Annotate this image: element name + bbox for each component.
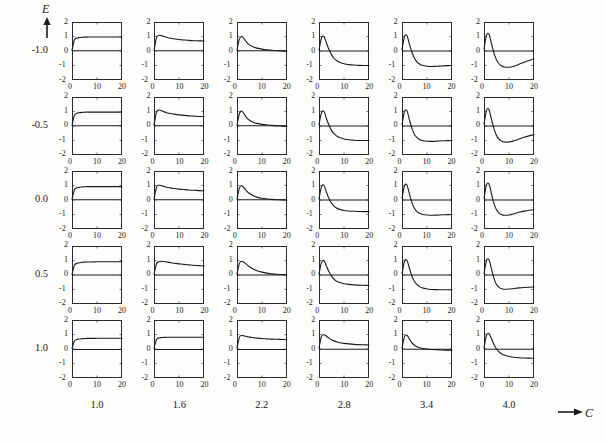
y-tick-label: -2 <box>306 149 313 158</box>
x-tick-label: 0 <box>315 82 319 91</box>
y-tick-label: 2 <box>229 315 233 324</box>
y-tick-label: 0 <box>311 344 315 353</box>
x-tick-label: 20 <box>448 82 456 91</box>
x-tick-label: 20 <box>118 82 126 91</box>
y-tick-label: 2 <box>146 17 150 26</box>
x-tick-label: 10 <box>423 157 431 166</box>
y-tick-label: 0 <box>64 344 68 353</box>
plot-panel-r0-c0 <box>72 22 122 80</box>
row-label-2: 0.0 <box>14 193 48 204</box>
x-tick-label: 0 <box>315 157 319 166</box>
x-tick-label: 20 <box>200 82 208 91</box>
row-label-1: -0.5 <box>14 119 48 130</box>
y-tick-label: 1 <box>394 31 398 40</box>
y-tick-label: 0 <box>229 344 233 353</box>
panel-plot-area <box>154 22 204 80</box>
y-tick-label: -2 <box>389 75 396 84</box>
y-tick-label: -1 <box>471 209 478 218</box>
x-tick-label: 10 <box>505 380 513 389</box>
y-tick-label: 2 <box>311 91 315 100</box>
x-tick-label: 10 <box>423 231 431 240</box>
plot-panel-r0-c1 <box>154 22 204 80</box>
x-tick-label: 10 <box>258 306 266 315</box>
response-curve-series <box>484 183 534 215</box>
x-tick-label: 20 <box>118 157 126 166</box>
panel-plot-area <box>319 171 369 229</box>
y-tick-label: 0 <box>476 344 480 353</box>
y-tick-label: 0 <box>394 269 398 278</box>
y-tick-label: -2 <box>471 224 478 233</box>
x-axis-label: C <box>585 406 593 421</box>
x-tick-label: 20 <box>283 306 291 315</box>
x-tick-label: 20 <box>530 157 538 166</box>
panel-plot-area <box>72 22 122 80</box>
y-tick-label: 1 <box>146 31 150 40</box>
y-tick-label: -1 <box>59 284 66 293</box>
x-tick-label: 20 <box>530 231 538 240</box>
y-tick-label: 2 <box>229 17 233 26</box>
plot-panel-r1-c1 <box>154 97 204 155</box>
y-tick-label: 0 <box>476 120 480 129</box>
panel-plot-area <box>154 320 204 378</box>
response-curve-series <box>237 261 287 275</box>
x-tick-label: 10 <box>93 380 101 389</box>
y-tick-label: 0 <box>476 46 480 55</box>
y-tick-label: 1 <box>64 31 68 40</box>
col-label-1: 1.6 <box>159 399 199 410</box>
y-tick-label: 2 <box>229 240 233 249</box>
response-curve-series <box>484 108 534 142</box>
y-tick-label: 0 <box>229 120 233 129</box>
panel-plot-area <box>237 97 287 155</box>
response-curve-series <box>154 261 204 274</box>
x-tick-label: 0 <box>315 306 319 315</box>
plot-panel-r4-c0 <box>72 320 122 378</box>
response-curve-series <box>237 36 287 51</box>
y-tick-label: -1 <box>306 358 313 367</box>
panel-plot-area <box>402 97 452 155</box>
x-tick-label: 0 <box>150 306 154 315</box>
y-tick-label: 1 <box>394 329 398 338</box>
y-tick-label: -1 <box>141 284 148 293</box>
panel-plot-area <box>402 246 452 304</box>
x-tick-label: 0 <box>398 306 402 315</box>
response-curve-series <box>484 33 534 67</box>
response-curve-series <box>237 111 287 126</box>
plot-panel-r4-c1 <box>154 320 204 378</box>
x-tick-label: 10 <box>340 380 348 389</box>
x-tick-label: 10 <box>175 380 183 389</box>
y-tick-label: -1 <box>224 60 231 69</box>
response-curve-series <box>72 37 122 50</box>
x-tick-label: 10 <box>175 231 183 240</box>
response-curve-series <box>402 335 452 350</box>
y-tick-label: -1 <box>224 358 231 367</box>
y-tick-label: 1 <box>476 106 480 115</box>
panel-plot-area <box>402 171 452 229</box>
y-tick-label: 1 <box>394 255 398 264</box>
y-tick-label: 0 <box>476 195 480 204</box>
y-tick-label: 0 <box>146 120 150 129</box>
x-tick-label: 10 <box>423 306 431 315</box>
panel-plot-area <box>484 246 534 304</box>
y-tick-label: 2 <box>64 17 68 26</box>
response-curve-series <box>72 112 122 125</box>
x-tick-label: 0 <box>315 380 319 389</box>
x-tick-label: 0 <box>398 380 402 389</box>
plot-panel-r1-c5 <box>484 97 534 155</box>
y-tick-label: -2 <box>224 373 231 382</box>
panel-plot-area <box>237 246 287 304</box>
y-tick-label: -2 <box>306 224 313 233</box>
y-tick-label: 0 <box>394 344 398 353</box>
y-tick-label: -1 <box>141 209 148 218</box>
y-tick-label: -1 <box>389 358 396 367</box>
y-tick-label: 1 <box>64 106 68 115</box>
x-tick-label: 10 <box>175 157 183 166</box>
x-tick-label: 0 <box>68 82 72 91</box>
y-tick-label: -2 <box>141 75 148 84</box>
x-tick-label: 10 <box>175 82 183 91</box>
x-tick-label: 0 <box>150 157 154 166</box>
y-tick-label: -1 <box>59 60 66 69</box>
y-tick-label: -1 <box>224 284 231 293</box>
y-tick-label: 1 <box>476 329 480 338</box>
x-tick-label: 10 <box>258 82 266 91</box>
y-tick-label: -1 <box>141 135 148 144</box>
